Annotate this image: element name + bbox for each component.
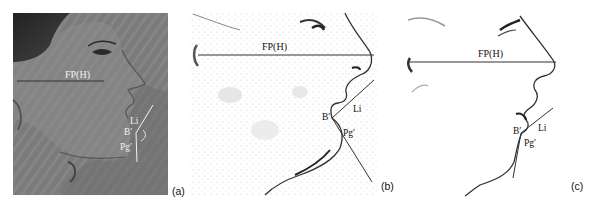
fp-h-label-c: FP(H): [478, 48, 503, 60]
li-label-a: Li: [130, 116, 139, 126]
li-label-b: Li: [353, 104, 362, 114]
li-label-c: Li: [538, 123, 547, 133]
panel-c: FP(H) Li B′ Pg′ (c): [405, 13, 583, 196]
panel-a: FP(H) Li B′ Pg′ (a): [13, 13, 185, 197]
b-label-c: B′: [513, 126, 521, 136]
panel-label-a: (a): [172, 185, 185, 197]
pg-label-c: Pg′: [524, 138, 536, 148]
pg-label-a: Pg′: [120, 142, 132, 152]
panel-b: FP(H) Li B′ Pg′ (b): [190, 13, 394, 195]
b-label-b: B′: [322, 112, 330, 122]
fp-h-label-a: FP(H): [65, 69, 90, 81]
pg-label-b: Pg′: [343, 128, 355, 138]
panel-label-c: (c): [571, 180, 583, 192]
panel-label-b: (b): [381, 180, 394, 192]
b-label-a: B′: [124, 127, 132, 137]
figure: FP(H) Li B′ Pg′ (a) FP(H) Li B′: [0, 0, 591, 206]
fp-h-label-b: FP(H): [262, 41, 287, 53]
